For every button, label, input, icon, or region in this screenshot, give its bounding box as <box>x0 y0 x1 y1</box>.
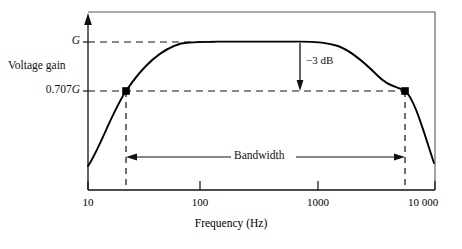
frequency-response-figure: Voltage gain G 0.707G −3 dB Bandwidth 10… <box>0 0 462 249</box>
x-tick-label-1000: 1000 <box>298 196 338 208</box>
half-power-value: 0.707 <box>46 83 72 95</box>
bandwidth-label: Bandwidth <box>231 150 287 162</box>
minus-3db-label: −3 dB <box>306 55 333 66</box>
figure-frame <box>88 12 435 190</box>
half-power-symbol: G <box>72 83 80 95</box>
bandwidth-arrowhead-right <box>394 153 405 160</box>
x-tick-label-100: 100 <box>182 196 218 208</box>
y-tick-label-g: G <box>52 35 80 47</box>
y-tick-label-half-power: 0.707G <box>16 84 80 96</box>
y-axis-label: Voltage gain <box>8 60 66 72</box>
x-tick-label-10: 10 <box>70 196 106 208</box>
bandwidth-arrowhead-left <box>126 153 137 160</box>
marker-upper-cutoff <box>401 87 409 95</box>
minus-3db-arrowhead <box>297 80 304 91</box>
x-tick-label-10000: 10 000 <box>408 196 462 208</box>
response-curve <box>88 42 434 166</box>
y-axis-arrowhead <box>84 13 92 25</box>
marker-lower-cutoff <box>122 87 130 95</box>
x-axis-label: Frequency (Hz) <box>0 217 462 229</box>
